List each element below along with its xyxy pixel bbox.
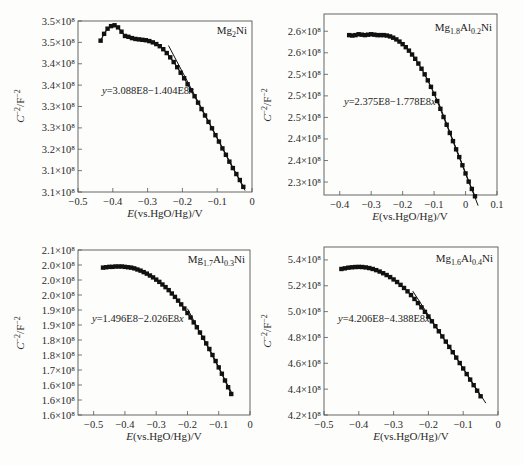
y-axis-title-sup: −2 xyxy=(260,332,269,341)
x-tick-label: −0.4 xyxy=(115,419,135,430)
x-tick-label: −0.3 xyxy=(147,419,166,430)
y-tick-label: 4.4×10⁸ xyxy=(288,384,322,395)
y-tick-label: 1.8×10⁸ xyxy=(42,350,76,361)
panel-label-part: Mg xyxy=(217,24,233,36)
panel-label-part: Al xyxy=(461,252,472,264)
data-point xyxy=(416,61,420,65)
data-point xyxy=(176,298,180,302)
fit-equation: y=2.375E8−1.778E8x xyxy=(343,96,436,107)
x-tick-label: −0.5 xyxy=(68,196,87,207)
fit-equation-body: =3.088E8−1.404E8 xyxy=(107,85,189,96)
y-tick-label: 5.4×10⁸ xyxy=(288,254,322,265)
fit-equation-x: x xyxy=(178,313,184,324)
x-tick-label: −0.2 xyxy=(173,196,192,207)
data-point xyxy=(182,306,186,310)
y-tick-label: 2.5×10⁸ xyxy=(288,90,322,101)
x-tick-label: −0.5 xyxy=(84,419,103,430)
data-point xyxy=(405,289,409,293)
data-point xyxy=(98,38,102,42)
fit-line xyxy=(437,99,478,205)
x-tick-label: 0 xyxy=(495,419,500,430)
x-tick-label: −0.1 xyxy=(425,199,444,210)
x-axis-title: E(vs.HgO/Hg)/V xyxy=(125,430,202,443)
y-tick-label: 4.6×10⁸ xyxy=(288,358,322,369)
data-point xyxy=(119,29,123,33)
data-curve xyxy=(341,267,480,396)
x-axis-title-rest: (vs.HgO/Hg)/V xyxy=(133,430,202,443)
panel-label-sub: 0.2 xyxy=(471,27,481,36)
panel-mg1.8al0.2ni: −0.4−0.3−0.2−0.100.12.3×10⁸2.4×10⁸2.4×10… xyxy=(260,14,504,223)
y-axis-title-unit: /F xyxy=(14,325,26,334)
panel-label-sub: 1.8 xyxy=(450,27,460,36)
data-point xyxy=(116,25,120,29)
panel-label: Mg1.6Al0.4Ni xyxy=(436,252,493,267)
data-point xyxy=(173,295,177,299)
x-axis-title: E(vs.HgO/Hg)/V xyxy=(372,430,449,443)
data-point xyxy=(419,67,423,71)
y-tick-label: 3.2×10⁸ xyxy=(42,144,76,155)
x-tick-label: −0.1 xyxy=(208,196,227,207)
x-tick-label: −0.4 xyxy=(349,419,369,430)
panel-label-part: Al xyxy=(460,21,471,33)
panel-mg2ni: −0.5−0.4−0.3−0.2−0.103.1×10⁸3.1×10⁸3.2×1… xyxy=(13,16,255,221)
y-axis-title-sup2: −2 xyxy=(260,314,269,323)
data-point xyxy=(410,52,414,56)
panel-label-part: Ni xyxy=(481,21,492,33)
panel-mg1.6al0.4ni: −0.5−0.4−0.3−0.2−0.104.2×10⁸4.4×10⁸4.6×1… xyxy=(260,247,501,443)
x-tick-label: −0.3 xyxy=(384,419,403,430)
y-tick-label: 2.0×10⁸ xyxy=(42,275,76,286)
data-point xyxy=(432,92,436,96)
data-point xyxy=(409,293,413,297)
y-axis-title: C−2/F−2 xyxy=(260,88,273,122)
y-tick-label: 4.8×10⁸ xyxy=(288,332,322,343)
panel-label-part: Mg xyxy=(188,253,204,265)
panel-label-part: Ni xyxy=(482,252,493,264)
y-axis-title-unit: /F xyxy=(261,323,273,332)
x-tick-label: −0.3 xyxy=(362,199,381,210)
y-axis-title-unit: /F xyxy=(14,98,26,107)
fit-equation: y=1.496E8−2.026E8x xyxy=(91,313,184,324)
y-tick-label: 1.9×10⁸ xyxy=(42,305,76,316)
y-tick-label: 2.6×10⁸ xyxy=(288,47,322,58)
y-tick-label: 3.3×10⁸ xyxy=(42,101,76,112)
panel-label-part: Ni xyxy=(234,253,245,265)
x-axis-title-rest: (vs.HgO/Hg)/V xyxy=(379,210,448,223)
data-point xyxy=(161,47,165,51)
panel-label-sub: 1.6 xyxy=(451,258,461,267)
x-tick-label: −0.1 xyxy=(454,419,473,430)
y-tick-label: 2.0×10⁸ xyxy=(42,290,76,301)
data-point xyxy=(413,57,417,61)
x-tick-label: 0 xyxy=(249,196,254,207)
y-axis-title-sup: −2 xyxy=(260,106,269,115)
y-tick-label: 2.4×10⁸ xyxy=(288,133,322,144)
y-tick-label: 2.5×10⁸ xyxy=(288,112,322,123)
panel-label: Mg1.8Al0.2Ni xyxy=(435,21,492,36)
y-tick-label: 2.0×10⁸ xyxy=(42,260,76,271)
x-axis-title: E(vs.HgO/Hg)/V xyxy=(126,207,203,220)
data-point xyxy=(168,55,172,59)
figure: −0.5−0.4−0.3−0.2−0.103.1×10⁸3.1×10⁸3.2×1… xyxy=(0,0,524,465)
data-point xyxy=(102,32,106,36)
x-tick-label: −0.5 xyxy=(314,419,333,430)
panel-label: Mg1.7Al0.3Ni xyxy=(188,253,245,268)
data-curve xyxy=(349,34,475,196)
y-axis-title-sup2: −2 xyxy=(13,316,22,325)
y-tick-label: 1.7×10⁸ xyxy=(42,365,76,376)
y-tick-label: 3.5×10⁸ xyxy=(42,16,76,27)
fit-line xyxy=(168,46,245,191)
y-tick-label: 2.3×10⁸ xyxy=(288,177,322,188)
plot-frame xyxy=(78,250,250,415)
panel-mg1.7al0.3ni: −0.5−0.4−0.3−0.2−0.101.6×10⁸1.6×10⁸1.6×1… xyxy=(13,245,253,444)
fit-equation-body: =2.375E8−1.778E8 xyxy=(349,96,431,107)
y-tick-label: 1.9×10⁸ xyxy=(42,320,76,331)
y-tick-label: 3.1×10⁸ xyxy=(42,165,76,176)
fit-equation: y=3.088E8−1.404E8x xyxy=(101,85,194,96)
y-axis-title: C−2/F−2 xyxy=(260,314,273,348)
y-tick-label: 3.1×10⁸ xyxy=(42,187,76,198)
x-tick-label: −0.3 xyxy=(138,196,157,207)
plot-frame xyxy=(324,247,498,415)
data-point xyxy=(422,72,426,76)
panel-label-sub: 0.4 xyxy=(472,258,482,267)
y-tick-label: 2.1×10⁸ xyxy=(42,245,76,256)
y-tick-label: 1.6×10⁸ xyxy=(42,395,76,406)
